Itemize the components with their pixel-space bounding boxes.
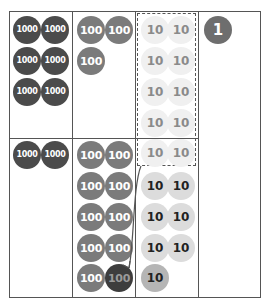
regroup-arrow-icon <box>0 0 268 305</box>
